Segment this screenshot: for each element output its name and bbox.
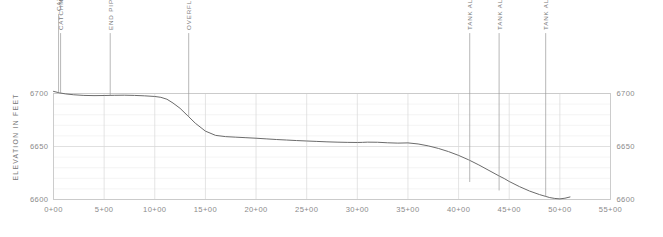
x-axis-tick-label: 40+00 xyxy=(447,205,470,214)
x-axis-tick-label: 55+00 xyxy=(599,205,622,214)
x-axis-tick-label: 35+00 xyxy=(396,205,419,214)
x-axis-tick-label: 15+00 xyxy=(194,205,217,214)
annotation-label: TANK ALT 2 xyxy=(496,0,503,30)
x-axis-tick-label: 20+00 xyxy=(244,205,267,214)
elevation-profile-chart: CATCHMENT INVERTCATCHMENTEND PIPEOVERFLO… xyxy=(0,0,663,237)
y-axis-tick-label-right: 6650 xyxy=(617,142,636,151)
y-axis-tick-label-left: 6650 xyxy=(30,142,49,151)
annotation-label: TANK ALT 3 xyxy=(542,0,549,30)
y-axis-tick-label-right: 6600 xyxy=(617,195,636,204)
annotation-label: OVERFLOW xyxy=(185,0,192,30)
y-axis-tick-label-right: 6700 xyxy=(617,89,636,98)
x-axis-tick-label: 45+00 xyxy=(498,205,521,214)
annotation-label: CATCHMENT xyxy=(57,0,64,30)
x-axis-tick-label: 30+00 xyxy=(346,205,369,214)
x-axis-tick-label: 10+00 xyxy=(143,205,166,214)
figure-caption xyxy=(258,226,408,234)
y-axis-tick-label-left: 6700 xyxy=(30,89,49,98)
x-axis-tick-label: 0+00 xyxy=(44,205,63,214)
annotation-label: END PIPE xyxy=(107,0,114,30)
annotation-label: TANK ALT 1 xyxy=(466,0,473,30)
x-axis-tick-label: 5+00 xyxy=(95,205,114,214)
x-axis-tick-label: 25+00 xyxy=(295,205,318,214)
profile-drawing: CATCHMENT INVERTCATCHMENTEND PIPEOVERFLO… xyxy=(0,0,663,237)
ground-profile-line xyxy=(54,91,570,198)
y-axis-title: ELEVATION IN FEET xyxy=(12,93,19,180)
x-axis-tick-label: 50+00 xyxy=(548,205,571,214)
y-axis-tick-label-left: 6600 xyxy=(30,195,49,204)
